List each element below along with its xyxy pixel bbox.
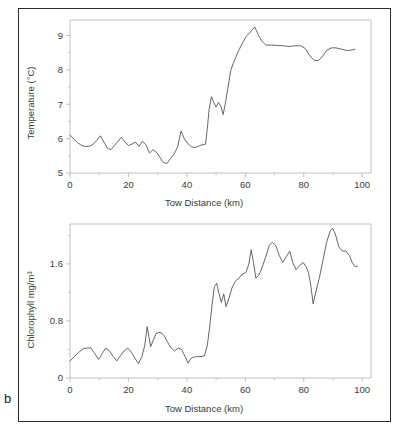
temperature-x-tick-labels: 020406080100	[67, 179, 370, 190]
temperature-x-ticks	[70, 173, 362, 177]
chlorophyll-x-ticks	[70, 378, 362, 382]
y-tick-label: 6	[58, 133, 63, 144]
chlorophyll-y-axis-title: Chlorophyll mg/m³	[25, 271, 36, 348]
x-tick-label: 20	[123, 384, 134, 395]
x-tick-label: 100	[354, 179, 370, 190]
temperature-y-axis-title: Temperature (°C)	[25, 67, 36, 140]
x-tick-label: 60	[240, 384, 251, 395]
chlorophyll-y-ticks	[66, 235, 70, 378]
temperature-x-axis-title: Tow Distance (km)	[165, 197, 243, 208]
temperature-chart: 020406080100 56789 Tow Distance (km) Tem…	[18, 8, 391, 213]
temperature-data-line	[70, 27, 355, 163]
x-tick-label: 80	[298, 384, 309, 395]
x-tick-label: 40	[182, 384, 193, 395]
chlorophyll-x-axis-title: Tow Distance (km)	[165, 403, 243, 414]
x-tick-label: 0	[67, 179, 72, 190]
chlorophyll-chart: 020406080100 00.81.6 Tow Distance (km) C…	[18, 210, 391, 420]
x-tick-label: 60	[240, 179, 251, 190]
y-tick-label: 1.6	[50, 258, 63, 269]
chlorophyll-data-line	[70, 228, 358, 363]
y-tick-label: 9	[58, 30, 63, 41]
x-tick-label: 20	[123, 179, 134, 190]
x-tick-label: 100	[354, 384, 370, 395]
temperature-y-ticks	[66, 35, 70, 173]
chlorophyll-x-tick-labels: 020406080100	[67, 384, 370, 395]
chlorophyll-y-tick-labels: 00.81.6	[50, 258, 63, 383]
x-tick-label: 0	[67, 384, 72, 395]
y-tick-label: 0	[58, 372, 63, 383]
y-tick-label: 5	[58, 167, 63, 178]
y-tick-label: 7	[58, 99, 63, 110]
x-tick-label: 40	[182, 179, 193, 190]
temperature-plot-frame	[70, 20, 371, 173]
figure-root: b 020406080100 56789 Tow Distance (km) T…	[0, 0, 396, 430]
x-tick-label: 80	[298, 179, 309, 190]
y-tick-label: 0.8	[50, 315, 63, 326]
y-tick-label: 8	[58, 64, 63, 75]
plot-frame-path	[70, 20, 371, 173]
temperature-y-tick-labels: 56789	[58, 30, 63, 179]
panel-label-b: b	[4, 392, 11, 405]
